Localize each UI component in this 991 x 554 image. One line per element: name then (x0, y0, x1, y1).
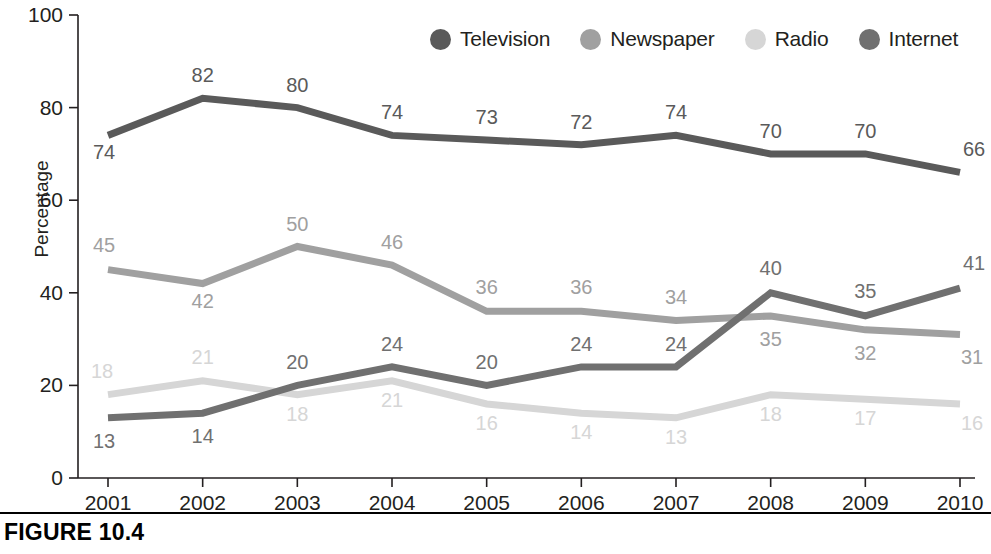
data-label: 13 (93, 430, 115, 452)
y-axis-tick-label: 0 (51, 466, 63, 489)
data-label: 14 (570, 421, 592, 443)
x-axis-tick-label: 2008 (747, 491, 794, 512)
data-label: 42 (192, 290, 214, 312)
data-label: 74 (665, 101, 687, 123)
y-axis-tick-label: 20 (40, 373, 63, 396)
data-label: 70 (760, 120, 782, 142)
data-label: 32 (854, 342, 876, 364)
y-axis-tick-label: 80 (40, 96, 63, 119)
data-label: 24 (570, 333, 592, 355)
data-label: 17 (854, 407, 876, 429)
y-axis-tick-label: 100 (28, 3, 63, 26)
data-label: 72 (570, 111, 592, 133)
x-axis-tick-label: 2003 (274, 491, 321, 512)
data-label: 31 (961, 346, 983, 368)
data-label: 50 (286, 213, 308, 235)
data-label: 35 (854, 280, 876, 302)
x-axis-tick-label: 2005 (463, 491, 510, 512)
figure-caption: FIGURE 10.4 (4, 519, 144, 546)
caption-divider (0, 512, 991, 514)
data-label: 70 (854, 120, 876, 142)
data-label: 34 (665, 286, 687, 308)
data-label: 18 (286, 403, 308, 425)
x-axis-tick-label: 2007 (653, 491, 700, 512)
x-axis-tick-label: 2004 (369, 491, 416, 512)
y-axis-tick-label: 60 (40, 188, 63, 211)
data-label: 20 (476, 351, 498, 373)
data-label: 41 (963, 252, 985, 274)
data-label: 21 (192, 346, 214, 368)
figure-container: TelevisionNewspaperRadioInternet Percent… (0, 0, 991, 554)
data-label: 35 (760, 328, 782, 350)
data-label: 16 (961, 412, 983, 434)
data-label: 20 (286, 351, 308, 373)
data-label: 24 (665, 333, 687, 355)
data-label: 21 (381, 389, 403, 411)
data-label: 74 (93, 141, 115, 163)
data-label: 45 (93, 234, 115, 256)
x-axis-tick-label: 2002 (179, 491, 226, 512)
data-label: 80 (286, 74, 308, 96)
series-line-newspaper (108, 247, 960, 335)
data-label: 13 (665, 426, 687, 448)
data-label: 18 (91, 360, 113, 382)
x-axis-tick-label: 2006 (558, 491, 605, 512)
x-axis-tick-label: 2009 (842, 491, 889, 512)
data-label: 40 (760, 257, 782, 279)
series-line-television (108, 98, 960, 172)
data-label: 74 (381, 101, 403, 123)
data-label: 36 (476, 276, 498, 298)
y-axis-tick-label: 40 (40, 281, 63, 304)
x-axis-tick-label: 2010 (937, 491, 984, 512)
data-label: 16 (476, 412, 498, 434)
data-label: 82 (192, 64, 214, 86)
data-label: 18 (760, 403, 782, 425)
data-label: 46 (381, 231, 403, 253)
data-label: 73 (476, 106, 498, 128)
x-axis-tick-label: 2001 (85, 491, 132, 512)
line-chart-plot: 0204060801002001200220032004200520062007… (0, 0, 991, 512)
data-label: 24 (381, 333, 403, 355)
data-label: 66 (963, 138, 985, 160)
series-line-radio (108, 381, 960, 418)
data-label: 36 (570, 276, 592, 298)
data-label: 14 (192, 425, 214, 447)
